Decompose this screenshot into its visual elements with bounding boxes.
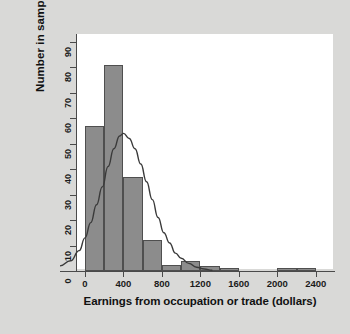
x-tick-label: 2000 — [257, 278, 297, 289]
histogram-bar — [181, 261, 200, 271]
histogram-bar — [200, 266, 219, 271]
y-tick-label: 70 — [63, 92, 73, 114]
x-tick-mark — [162, 272, 163, 277]
x-axis-title: Earnings from occupation or trade (dolla… — [60, 295, 340, 307]
histogram-bar — [123, 177, 142, 271]
chart-card: 0102030405060708090 04008001200160020002… — [12, 12, 338, 322]
y-tick-label: 50 — [63, 143, 73, 165]
figure-container: 0102030405060708090 04008001200160020002… — [0, 0, 350, 334]
y-tick-label: 60 — [63, 117, 73, 139]
x-tick-mark — [85, 272, 86, 277]
y-tick-label: 30 — [63, 194, 73, 216]
x-tick-label: 400 — [103, 278, 143, 289]
y-axis-title: Number in sample — [34, 0, 48, 92]
x-tick-label: 0 — [65, 278, 105, 289]
x-tick-mark — [239, 272, 240, 277]
x-tick-mark — [123, 272, 124, 277]
x-axis-line — [60, 271, 335, 272]
x-tick-label: 1600 — [219, 278, 259, 289]
x-tick-label: 1200 — [180, 278, 220, 289]
histogram-bar — [162, 265, 181, 271]
histogram-bar — [85, 126, 104, 271]
y-tick-label: 10 — [63, 245, 73, 267]
histogram-bar — [297, 268, 316, 271]
y-axis-line — [76, 34, 77, 272]
y-tick-label: 90 — [63, 41, 73, 63]
x-tick-mark — [316, 272, 317, 277]
histogram-bar — [143, 240, 162, 271]
x-tick-mark — [200, 272, 201, 277]
histogram-bar — [277, 268, 296, 271]
y-tick-label: 40 — [63, 168, 73, 190]
histogram-bar — [104, 65, 123, 271]
y-tick-label: 20 — [63, 219, 73, 241]
x-tick-label: 800 — [142, 278, 182, 289]
y-tick-label: 80 — [63, 66, 73, 88]
x-tick-mark — [277, 272, 278, 277]
histogram-bar — [220, 268, 239, 271]
x-tick-label: 2400 — [296, 278, 336, 289]
